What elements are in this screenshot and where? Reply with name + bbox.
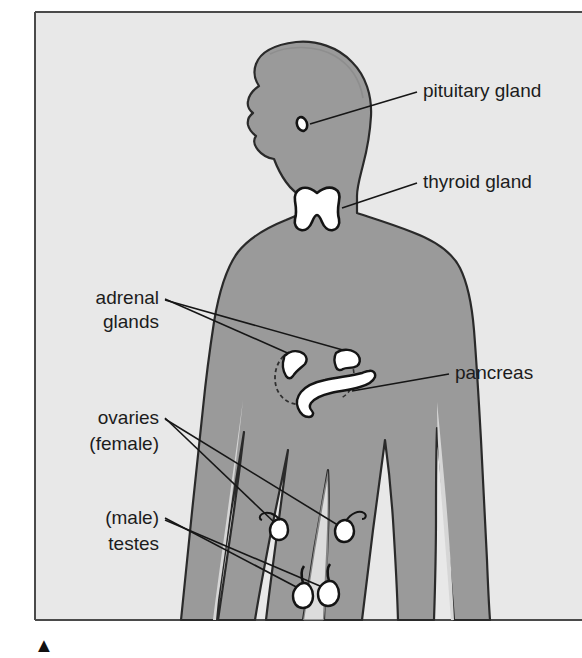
adrenal-glands-label-line-1: adrenal bbox=[96, 287, 159, 308]
ovaries-label-line-2: (female) bbox=[89, 433, 159, 454]
adrenal-glands-label-line-2: glands bbox=[103, 311, 159, 332]
ovaries-label-line-1: ovaries bbox=[98, 407, 159, 428]
testes-label-line-1: (male) bbox=[105, 507, 159, 528]
adrenal-gland-right-shape bbox=[335, 350, 360, 370]
pancreas-label: pancreas bbox=[455, 362, 533, 383]
endocrine-diagram-figure: pituitary gland thyroid gland pancreas a… bbox=[0, 0, 582, 658]
pituitary-gland-label: pituitary gland bbox=[423, 80, 541, 101]
diagram-canvas: pituitary gland thyroid gland pancreas a… bbox=[0, 0, 582, 658]
thyroid-gland-label: thyroid gland bbox=[423, 171, 532, 192]
testes-label-line-2: testes bbox=[108, 533, 159, 554]
figure-caption-marker: ▲ bbox=[34, 634, 54, 656]
